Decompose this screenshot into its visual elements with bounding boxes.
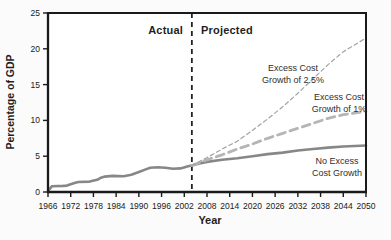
no-excess-cost-growth-label-line1: No Excess	[312, 155, 362, 167]
excess-cost-growth-1pct-label-line1: Excess Cost	[312, 91, 367, 103]
x-axis-tick-label: 1972	[61, 201, 80, 211]
x-axis-tick-label: 1978	[84, 201, 103, 211]
y-axis-tick-label: 25	[31, 8, 41, 18]
projected-region-label: Projected	[201, 24, 253, 36]
excess-cost-growth-1pct-label: Excess Cost Growth of 1%	[312, 91, 367, 115]
y-axis-tick-label: 0	[35, 187, 40, 197]
y-axis-tick-label: 20	[31, 44, 41, 54]
excess-cost-growth-2.5pct-label: Excess Cost Growth of 2.5%	[262, 62, 324, 86]
x-axis-tick-label: 2026	[266, 201, 285, 211]
x-axis-title: Year	[198, 214, 221, 226]
x-axis-tick-label: 1966	[39, 201, 58, 211]
no-excess-cost-growth-label-line2: Cost Growth	[312, 167, 362, 179]
y-axis-tick-label: 10	[31, 115, 41, 125]
chart-figure: 0510152025196619721978198419901996200220…	[0, 0, 391, 240]
x-axis-tick-label: 1990	[129, 201, 148, 211]
x-axis-tick-label: 2002	[175, 201, 194, 211]
excess-cost-growth-2.5pct-label-line1: Excess Cost	[262, 62, 324, 74]
x-axis-tick-label: 1984	[107, 201, 126, 211]
gdp-projection-chart: 0510152025196619721978198419901996200220…	[0, 0, 391, 240]
x-axis-tick-label: 2032	[288, 201, 307, 211]
y-axis-title: Percentage of GDP	[4, 54, 16, 149]
x-axis-tick-label: 2014	[220, 201, 239, 211]
x-axis-tick-label: 2050	[357, 201, 376, 211]
x-axis-tick-label: 2020	[243, 201, 262, 211]
x-axis-tick-label: 1996	[152, 201, 171, 211]
y-axis-tick-label: 5	[35, 151, 40, 161]
x-axis-tick-label: 2008	[198, 201, 217, 211]
x-axis-tick-label: 2038	[311, 201, 330, 211]
no-excess-cost-growth-label: No Excess Cost Growth	[312, 155, 362, 179]
actual-region-label: Actual	[148, 24, 183, 36]
excess-cost-growth-2.5pct-label-line2: Growth of 2.5%	[262, 74, 324, 86]
x-axis-tick-label: 2044	[334, 201, 353, 211]
y-axis-tick-label: 15	[31, 80, 41, 90]
excess-cost-growth-1pct-label-line2: Growth of 1%	[312, 103, 367, 115]
